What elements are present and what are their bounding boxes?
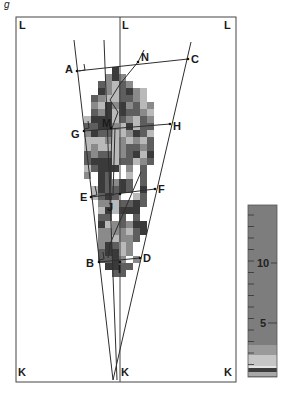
pixel-cell <box>133 207 140 214</box>
pixel-cell <box>126 123 133 130</box>
point-d-dot <box>139 257 142 260</box>
pixel-cell <box>98 193 105 200</box>
pixel-cell <box>126 158 133 165</box>
point-a-dot <box>76 70 79 73</box>
pixel-cell <box>133 130 140 137</box>
pixel-cell <box>133 235 140 242</box>
pixel-cell <box>133 137 140 144</box>
corner-label-l: L <box>224 19 231 31</box>
pixel-cell <box>98 88 105 95</box>
colorbar: 10 5 <box>248 205 277 377</box>
pixel-cell <box>105 109 112 116</box>
colorbar-tick-5: 5 <box>260 317 266 329</box>
pixel-cell <box>126 165 133 172</box>
pixel-cell <box>98 221 105 228</box>
pixel-cell <box>98 235 105 242</box>
pixel-cell <box>112 137 119 144</box>
pixel-cell <box>91 137 98 144</box>
pixel-cell <box>147 151 154 158</box>
pixel-cell <box>126 263 133 270</box>
point-c-dot <box>187 58 190 61</box>
pixel-cell <box>133 158 140 165</box>
pixel-cell <box>133 151 140 158</box>
corner-label-l: L <box>122 19 129 31</box>
pixel-cell <box>98 109 105 116</box>
pixel-cell <box>126 179 133 186</box>
colorbar-band-mid <box>249 345 277 355</box>
point-e-dot <box>90 196 93 199</box>
pixel-cell <box>126 81 133 88</box>
pixel-cell <box>112 256 119 263</box>
pixel-cell <box>147 116 154 123</box>
pixel-cell <box>140 221 147 228</box>
pixel-cell <box>133 144 140 151</box>
pixel-cell <box>126 249 133 256</box>
pixel-cell <box>126 235 133 242</box>
pixel-cell <box>133 88 140 95</box>
point-label-h: H <box>173 120 181 132</box>
pixel-cell <box>147 137 154 144</box>
point-label-n: N <box>141 51 149 63</box>
panel-label: g <box>4 0 10 10</box>
pixel-map <box>84 67 154 277</box>
point-label-g: G <box>71 128 80 140</box>
pixel-cell <box>147 109 154 116</box>
pixel-cell <box>98 81 105 88</box>
figure-canvas: g ANCGMHEJFBID LLLKKK 10 5 <box>0 0 292 393</box>
corner-label-k: K <box>224 366 232 378</box>
pixel-cell <box>126 228 133 235</box>
pixel-cell <box>126 130 133 137</box>
pixel-cell <box>91 186 98 193</box>
pixel-cell <box>140 179 147 186</box>
pixel-cell <box>147 123 154 130</box>
pixel-cell <box>112 67 119 74</box>
pixel-cell <box>140 228 147 235</box>
pixel-cell <box>98 207 105 214</box>
pixel-cell <box>84 165 91 172</box>
pixel-cell <box>126 207 133 214</box>
pixel-cell <box>147 102 154 109</box>
pixel-cell <box>98 228 105 235</box>
point-label-i: I <box>118 263 121 275</box>
pixel-cell <box>140 130 147 137</box>
pixel-cell <box>133 228 140 235</box>
pixel-cell <box>105 137 112 144</box>
point-label-c: C <box>191 53 199 65</box>
pixel-cell <box>133 102 140 109</box>
pixel-cell <box>126 172 133 179</box>
pixel-cell <box>126 137 133 144</box>
pixel-cell <box>105 74 112 81</box>
pixel-cell <box>98 186 105 193</box>
point-g-dot <box>83 130 86 133</box>
pixel-cell <box>98 102 105 109</box>
pixel-cell <box>98 95 105 102</box>
pixel-cell <box>140 151 147 158</box>
pixel-cell <box>133 109 140 116</box>
pixel-cell <box>133 221 140 228</box>
pixel-cell <box>133 116 140 123</box>
corner-label-k: K <box>18 366 26 378</box>
pixel-cell <box>140 116 147 123</box>
pixel-cell <box>140 109 147 116</box>
pixel-cell <box>112 74 119 81</box>
pixel-cell <box>112 249 119 256</box>
pixel-cell <box>147 144 154 151</box>
pixel-cell <box>98 165 105 172</box>
pixel-cell <box>126 144 133 151</box>
pixel-cell <box>98 137 105 144</box>
pixel-cell <box>126 102 133 109</box>
pixel-cell <box>98 144 105 151</box>
outer-frame <box>16 17 236 382</box>
pixel-cell <box>105 179 112 186</box>
pixel-cell <box>126 95 133 102</box>
pixel-cell <box>112 151 119 158</box>
colorbar-band-dark <box>249 368 277 372</box>
point-label-f: F <box>158 183 165 195</box>
pixel-cell <box>98 179 105 186</box>
pixel-cell <box>84 116 91 123</box>
pixel-cell <box>112 130 119 137</box>
pixel-cell <box>91 158 98 165</box>
pixel-cell <box>133 256 140 263</box>
pixel-cell <box>147 130 154 137</box>
point-label-a: A <box>65 63 73 75</box>
